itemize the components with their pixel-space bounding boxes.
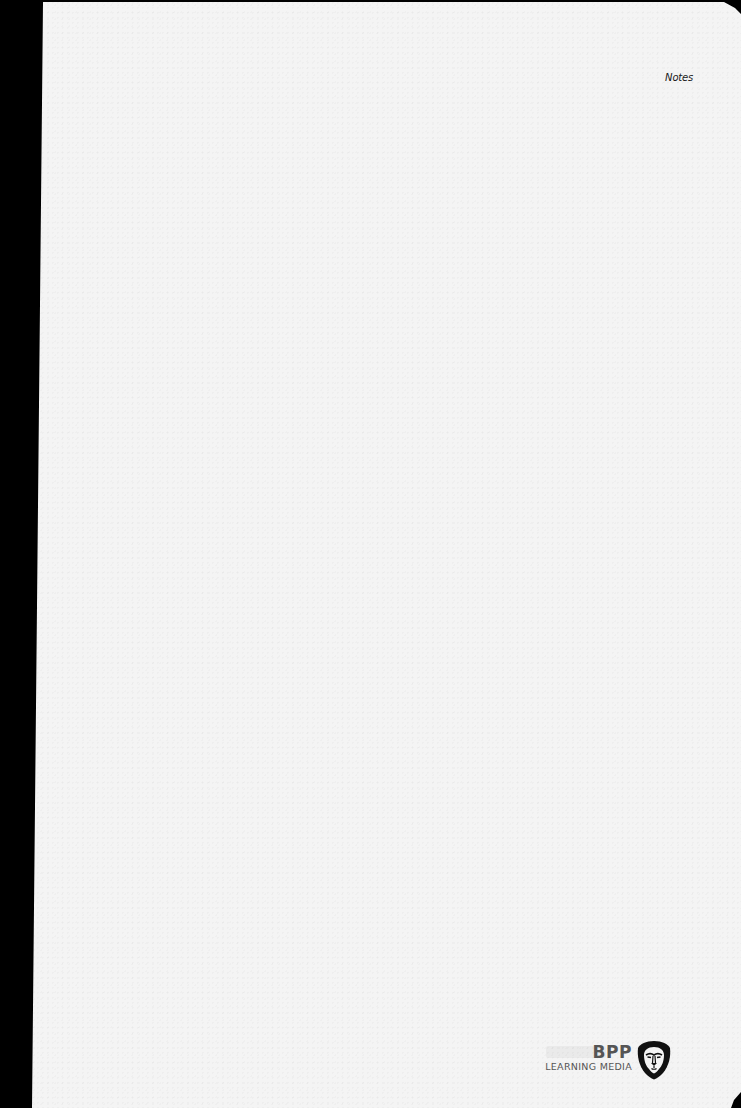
publisher-wordmark: BPP LEARNING MEDIA [545, 1043, 632, 1073]
publisher-subtitle: LEARNING MEDIA [545, 1061, 632, 1073]
publisher-name: BPP [545, 1043, 632, 1061]
notes-page: Notes BPP LEARNING MEDIA [0, 0, 741, 1108]
publisher-logo: BPP LEARNING MEDIA [546, 1040, 686, 1085]
lion-head-shield-icon [636, 1040, 672, 1080]
page-section-label: Notes [665, 72, 693, 83]
